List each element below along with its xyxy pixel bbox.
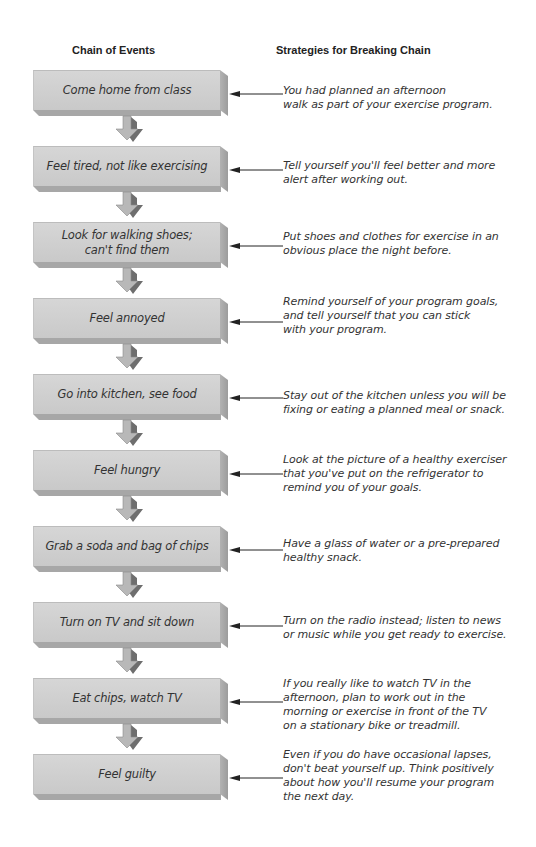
strategy-text: Have a glass of water or a pre-preparedh… [283,537,533,565]
down-arrow-icon [115,191,149,221]
left-arrow-icon [229,160,283,170]
strategy-line: Turn on the radio instead; listen to new… [283,614,533,628]
strategy-line: If you really like to watch TV in the [283,677,533,691]
strategy-line: You had planned an afternoon [283,84,533,98]
event-box: Grab a soda and bag of chips [33,526,220,566]
event-box: Feel annoyed [33,298,220,338]
left-arrow-icon [229,768,283,778]
chain-header: Chain of Events [72,44,155,56]
strategy-line: morning or exercise in front of the TV [283,705,533,719]
down-arrow-icon [115,571,149,601]
event-box: Feel guilty [33,754,220,794]
left-arrow-icon [229,84,283,94]
left-arrow-icon [229,692,283,702]
strategy-line: or music while you get ready to exercise… [283,628,533,642]
event-label: Come home from class [63,83,191,98]
strategy-line: the next day. [283,790,533,804]
strategy-text: You had planned an afternoonwalk as part… [283,84,533,112]
left-arrow-icon [229,464,283,474]
event-box: Come home from class [33,70,220,110]
left-arrow-icon [229,388,283,398]
strategy-text: Remind yourself of your program goals,an… [283,295,533,337]
strategy-text: Stay out of the kitchen unless you will … [283,389,533,417]
event-label: Go into kitchen, see food [57,387,196,402]
left-arrow-icon [229,616,283,626]
strategy-line: fixing or eating a planned meal or snack… [283,403,533,417]
strategy-line: Remind yourself of your program goals, [283,295,533,309]
left-arrow-icon [229,540,283,550]
strategy-text: Look at the picture of a healthy exercis… [283,453,533,495]
event-box: Feel hungry [33,450,220,490]
event-box: Go into kitchen, see food [33,374,220,414]
event-label: Look for walking shoes;can't find them [62,228,193,258]
event-box: Feel tired, not like exercising [33,146,220,186]
down-arrow-icon [115,723,149,753]
event-label: Feel hungry [94,463,160,478]
strategy-line: on a stationary bike or treadmill. [283,719,533,733]
left-arrow-icon [229,236,283,246]
strategy-line: that you've put on the refrigerator to [283,467,533,481]
strategy-line: Stay out of the kitchen unless you will … [283,389,533,403]
event-label: Feel tired, not like exercising [47,159,208,174]
event-box: Look for walking shoes;can't find them [33,222,220,262]
down-arrow-icon [115,495,149,525]
down-arrow-icon [115,115,149,145]
event-label: Eat chips, watch TV [72,691,181,706]
strategy-text: Turn on the radio instead; listen to new… [283,614,533,642]
strategy-line: afternoon, plan to work out in the [283,691,533,705]
down-arrow-icon [115,419,149,449]
strategy-line: Put shoes and clothes for exercise in an [283,230,533,244]
strategy-line: about how you'll resume your program [283,776,533,790]
strategy-line: remind you of your goals. [283,481,533,495]
strategy-line: Even if you do have occasional lapses, [283,748,533,762]
event-label: Grab a soda and bag of chips [45,539,208,554]
down-arrow-icon [115,267,149,297]
strategy-line: and tell yourself that you can stick [283,309,533,323]
down-arrow-icon [115,647,149,677]
strategy-text: If you really like to watch TV in theaft… [283,677,533,733]
strategies-header: Strategies for Breaking Chain [276,44,431,56]
down-arrow-icon [115,343,149,373]
strategy-line: don't beat yourself up. Think positively [283,762,533,776]
strategy-line: Have a glass of water or a pre-prepared [283,537,533,551]
strategy-line: walk as part of your exercise program. [283,98,533,112]
event-label: Feel guilty [98,767,156,782]
strategy-line: healthy snack. [283,551,533,565]
event-label: Feel annoyed [89,311,164,326]
strategy-text: Even if you do have occasional lapses,do… [283,748,533,804]
strategy-line: Look at the picture of a healthy exercis… [283,453,533,467]
event-box: Turn on TV and sit down [33,602,220,642]
strategy-text: Tell yourself you'll feel better and mor… [283,159,533,187]
strategy-line: obvious place the night before. [283,244,533,258]
strategy-text: Put shoes and clothes for exercise in an… [283,230,533,258]
strategy-line: alert after working out. [283,173,533,187]
left-arrow-icon [229,312,283,322]
strategy-line: Tell yourself you'll feel better and mor… [283,159,533,173]
event-box: Eat chips, watch TV [33,678,220,718]
strategy-line: with your program. [283,323,533,337]
event-label: Turn on TV and sit down [60,615,194,630]
